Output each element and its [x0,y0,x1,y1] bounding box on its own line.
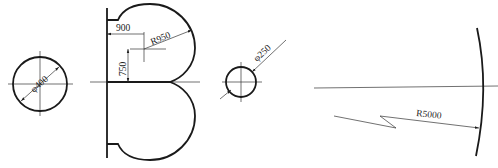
d250-leader-lower [220,90,231,99]
circle-250-figure: φ250 [220,40,286,102]
arc-5000-figure: R5000 [314,28,498,156]
dim-900-label: 900 [116,23,131,33]
drawing-canvas: φ400 900 R950 750 φ250 [0,0,498,168]
circle-400-figure: φ400 [8,51,73,116]
r5000-label: R5000 [416,108,442,121]
large-arc [476,28,483,156]
lobe-shape-figure: 900 R950 750 [90,4,200,160]
d250-label: φ250 [252,43,273,64]
dim-750-label: 750 [118,62,128,77]
r5000-leader [334,116,479,128]
bottom-lobe [107,82,195,160]
r950-label: R950 [149,30,172,47]
horizontal-axis [314,86,498,88]
